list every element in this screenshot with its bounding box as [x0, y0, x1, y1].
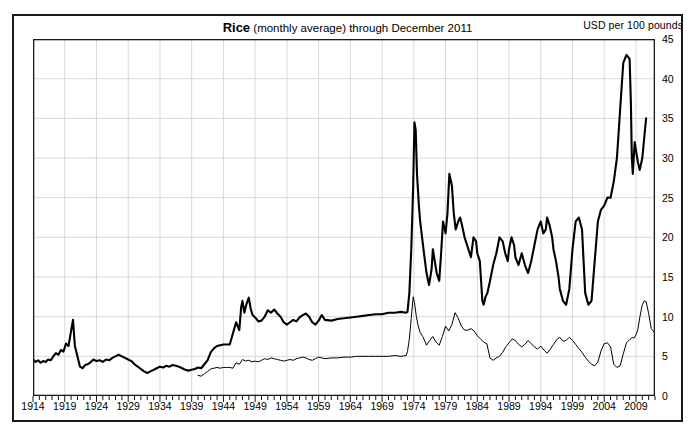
x-axis-tick-label: 1974	[402, 400, 425, 412]
x-axis-tick-label: 1919	[53, 400, 76, 412]
x-axis: 1914191919241929193419391944194919541959…	[0, 398, 697, 420]
x-axis-tick-label: 2009	[624, 400, 647, 412]
x-axis-tick-label: 1939	[180, 400, 203, 412]
unit-label: USD per 100 pounds	[583, 19, 683, 31]
x-axis-tick-label: 1994	[529, 400, 552, 412]
y-axis-tick-label: 35	[662, 112, 674, 124]
y-axis-tick-label: 0	[662, 390, 668, 402]
gridlines	[33, 39, 655, 396]
x-axis-tick-label: 1944	[212, 400, 235, 412]
y-axis-tick-label: 25	[662, 192, 674, 204]
y-axis-tick-label: 5	[662, 350, 668, 362]
x-axis-tick-label: 1989	[497, 400, 520, 412]
chart-title-bar: Rice (monthly average) through December …	[20, 18, 675, 38]
x-axis-tick-label: 1969	[370, 400, 393, 412]
series-line-2	[198, 297, 654, 376]
title-suffix: (monthly average) through December 2011	[250, 22, 472, 34]
x-axis-tick-label: 1949	[243, 400, 266, 412]
series-line-1	[33, 55, 646, 373]
x-axis-tick-label: 1924	[85, 400, 108, 412]
x-axis-tick-label: 1934	[148, 400, 171, 412]
y-axis-tick-label: 10	[662, 311, 674, 323]
y-axis-tick-label: 20	[662, 231, 674, 243]
x-axis-tick-label: 1929	[117, 400, 140, 412]
plot-border	[34, 40, 655, 396]
x-axis-tick-label: 1964	[339, 400, 362, 412]
chart-svg	[33, 39, 655, 396]
x-axis-tick-label: 1914	[21, 400, 44, 412]
y-axis-tick-label: 15	[662, 271, 674, 283]
x-axis-tick-label: 1979	[434, 400, 457, 412]
x-axis-tick-label: 1999	[561, 400, 584, 412]
x-axis-tick-label: 1984	[466, 400, 489, 412]
series-layer	[33, 55, 654, 376]
y-axis-tick-label: 30	[662, 152, 674, 164]
title-main: Rice	[223, 20, 250, 35]
x-axis-tick-label: 1959	[307, 400, 330, 412]
plot-area	[33, 39, 655, 396]
page-title: Rice (monthly average) through December …	[20, 18, 675, 38]
y-axis-tick-label: 40	[662, 73, 674, 85]
x-axis-tick-label: 2004	[593, 400, 616, 412]
x-axis-tick-label: 1954	[275, 400, 298, 412]
y-axis-tick-label: 45	[662, 33, 674, 45]
